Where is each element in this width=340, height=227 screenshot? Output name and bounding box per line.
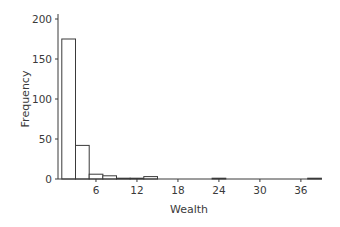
y-axis-ticks: 050100150200	[32, 13, 58, 185]
y-tick-label: 100	[32, 93, 52, 105]
histogram-bar	[62, 39, 76, 179]
y-tick-label: 200	[32, 13, 52, 25]
histogram-bar	[76, 145, 90, 179]
x-axis-ticks: 61218243036	[93, 179, 308, 196]
histogram-chart: 050100150200 61218243036 Wealth Frequenc…	[0, 0, 340, 227]
y-tick-label: 0	[45, 173, 52, 185]
x-tick-label: 18	[171, 184, 184, 196]
histogram-bar	[89, 174, 103, 179]
x-tick-label: 12	[130, 184, 143, 196]
x-axis-title: Wealth	[170, 203, 208, 216]
x-tick-label: 6	[93, 184, 100, 196]
x-tick-label: 24	[212, 184, 226, 196]
y-tick-label: 150	[32, 53, 52, 65]
histogram-bars	[62, 39, 322, 179]
y-axis-title: Frequency	[19, 70, 32, 127]
x-tick-label: 30	[253, 184, 266, 196]
x-tick-label: 36	[294, 184, 308, 196]
y-tick-label: 50	[39, 133, 52, 145]
